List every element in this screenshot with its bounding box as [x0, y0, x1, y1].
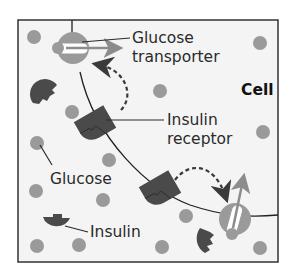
- label-glucose-transporter-line1: Glucose: [132, 29, 194, 47]
- label-glucose: Glucose: [50, 170, 112, 188]
- label-insulin-receptor-line1: Insulin: [167, 111, 218, 129]
- label-insulin: Insulin: [90, 223, 141, 241]
- insulin-glucose-diagram: Glucose transporter Cell Insulin recepto…: [0, 0, 300, 278]
- label-cell: Cell: [241, 81, 274, 99]
- label-insulin-receptor-line2: receptor: [167, 130, 233, 148]
- label-glucose-transporter-line2: transporter: [132, 48, 220, 66]
